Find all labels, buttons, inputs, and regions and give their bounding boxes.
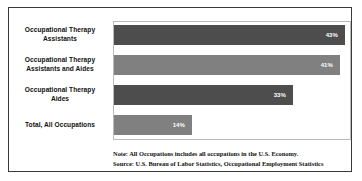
bar-row: Total, All Occupations 14% <box>114 112 350 138</box>
category-label-line1: Total, All Occupations <box>25 121 95 130</box>
bar: 41% <box>114 55 340 75</box>
category-label: Occupational Therapy Assistants <box>10 22 110 48</box>
footnote-source: Source: U.S. Bureau of Labor Statistics,… <box>113 159 362 169</box>
category-label: Total, All Occupations <box>10 112 110 138</box>
bar-row: Occupational Therapy Assistants and Aide… <box>114 52 350 78</box>
category-label: Occupational Therapy Aides <box>10 82 110 108</box>
category-label-line1: Occupational Therapy <box>25 86 95 93</box>
category-label-line1: Occupational Therapy <box>25 56 95 63</box>
bar-chart-figure: Occupational Therapy Assistants 43% Occu… <box>0 0 362 181</box>
footnotes: Note: All Occupations includes all occup… <box>113 149 362 169</box>
bar: 14% <box>114 115 192 135</box>
category-label: Occupational Therapy Assistants and Aide… <box>10 52 110 78</box>
bar-value-label: 43% <box>326 32 338 38</box>
bar-value-label: 33% <box>274 92 286 98</box>
bar-value-label: 41% <box>321 62 333 68</box>
footnote-note: Note: All Occupations includes all occup… <box>113 149 362 159</box>
bar-row: Occupational Therapy Aides 33% <box>114 82 350 108</box>
chart-outer-frame: Occupational Therapy Assistants 43% Occu… <box>8 7 352 172</box>
category-label-line2: Assistants and Aides <box>26 65 93 72</box>
category-label-line1: Occupational Therapy <box>25 26 95 33</box>
category-label-line2: Assistants <box>43 35 77 42</box>
plot-area: Occupational Therapy Assistants 43% Occu… <box>113 21 351 140</box>
bar-value-label: 14% <box>173 122 185 128</box>
bar-row: Occupational Therapy Assistants 43% <box>114 22 350 48</box>
bar: 33% <box>114 85 293 105</box>
category-label-line2: Aides <box>51 95 69 102</box>
bar: 43% <box>114 25 345 45</box>
